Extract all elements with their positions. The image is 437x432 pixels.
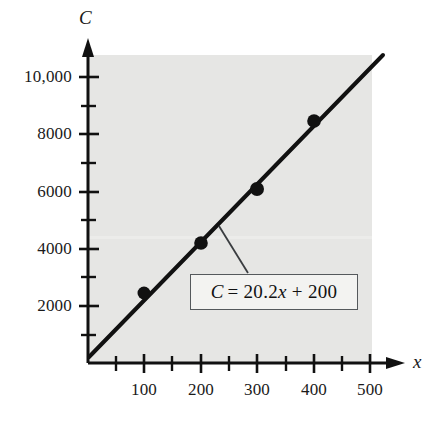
- equation-variable: x: [278, 281, 287, 302]
- equation-equals: =: [227, 281, 238, 302]
- data-point: [138, 287, 151, 300]
- y-axis-arrowhead: [82, 38, 94, 57]
- equation-callout-box: C = 20.2x + 200: [190, 274, 358, 310]
- equation-lhs: C: [211, 281, 224, 302]
- x-tick-label-300: 300: [237, 380, 277, 400]
- y-tick-label-2000: 2000: [0, 296, 72, 316]
- data-point: [194, 236, 208, 250]
- y-tick-label-6000: 6000: [0, 182, 72, 202]
- equation-plus: +: [292, 281, 303, 302]
- scan-artifact-band: [88, 236, 372, 239]
- chart-figure: C x 10,000 8000 6000 4000 2000 100 200 3…: [0, 0, 437, 432]
- y-tick-label-4000: 4000: [0, 239, 72, 259]
- x-axis-label: x: [413, 351, 421, 373]
- equation-text: C = 20.2x + 200: [211, 281, 338, 303]
- x-axis-arrowhead: [386, 357, 405, 369]
- data-point: [307, 114, 321, 128]
- equation-slope: 20.2: [244, 281, 278, 302]
- x-tick-label-100: 100: [124, 380, 164, 400]
- y-tick-label-10000: 10,000: [0, 67, 72, 87]
- x-tick-label-200: 200: [181, 380, 221, 400]
- chart-canvas: [0, 0, 437, 432]
- data-point: [250, 182, 264, 196]
- x-tick-label-500: 500: [350, 380, 390, 400]
- x-tick-label-400: 400: [294, 380, 334, 400]
- equation-intercept: 200: [308, 281, 337, 302]
- y-axis-label: C: [79, 7, 92, 29]
- y-tick-label-8000: 8000: [0, 124, 72, 144]
